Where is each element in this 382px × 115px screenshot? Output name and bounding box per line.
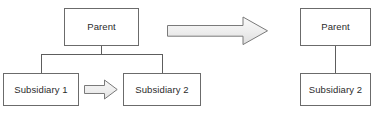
before-parent-node: Parent (64, 8, 139, 46)
before-subsidiary-1-node: Subsidiary 1 (3, 73, 79, 106)
diagram-canvas: Parent Subsidiary 1 Subsidiary 2 (0, 0, 382, 115)
merge-arrow-icon (84, 79, 118, 100)
after-subsidiary-2-label: Subsidiary 2 (309, 85, 362, 95)
before-horizontal-bus-connector (41, 54, 163, 55)
transform-arrow-icon (167, 16, 269, 46)
after-parent-label: Parent (321, 22, 350, 32)
before-subsidiary-2-node: Subsidiary 2 (123, 73, 201, 106)
before-subsidiary-1-drop-connector (41, 54, 42, 73)
before-parent-label: Parent (87, 22, 116, 32)
after-parent-node: Parent (300, 8, 371, 46)
after-subsidiary-2-node: Subsidiary 2 (300, 73, 371, 106)
after-parent-to-subsidiary-connector (335, 46, 336, 73)
before-subsidiary-2-label: Subsidiary 2 (135, 85, 188, 95)
before-subsidiary-1-label: Subsidiary 1 (14, 85, 67, 95)
before-subsidiary-2-drop-connector (162, 54, 163, 73)
